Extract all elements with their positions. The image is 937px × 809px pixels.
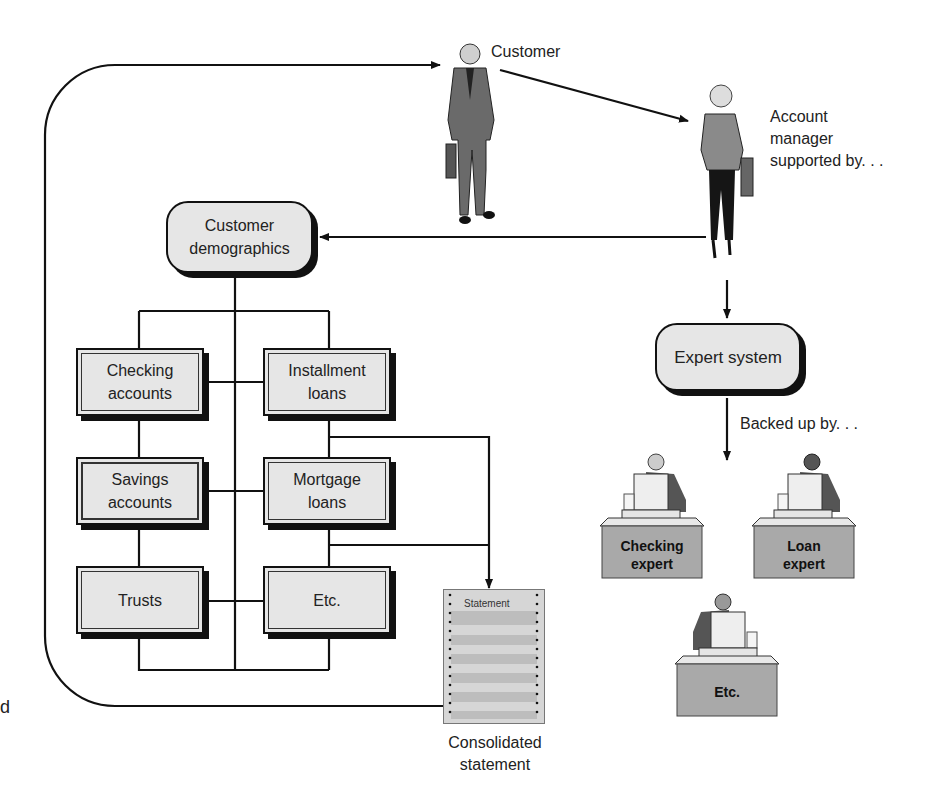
- customer-label: Customer: [491, 41, 560, 63]
- loan-expert-label: Loan expert: [754, 537, 854, 573]
- backed-up-label: Backed up by. . .: [740, 413, 858, 435]
- etc-expert-label: Etc.: [677, 683, 777, 701]
- account-manager-figure-icon: [693, 80, 763, 265]
- customer-to-manager-arrow: [500, 70, 688, 121]
- savings-accounts-node: Savingsaccounts: [76, 457, 204, 525]
- account-manager-label: Account manager supported by. . .: [770, 106, 884, 172]
- checking-accounts-node: Checkingaccounts: [76, 348, 204, 416]
- statement-doc-title: Statement: [464, 598, 510, 609]
- customer-demographics-node: Customer demographics: [166, 201, 313, 273]
- etc-products-node: Etc.: [263, 566, 391, 634]
- consolidated-statement-label: Consolidated statement: [440, 732, 550, 776]
- expert-system-node: Expert system: [655, 323, 801, 391]
- trusts-node: Trusts: [76, 566, 204, 634]
- checking-expert-label: Checking expert: [602, 537, 702, 573]
- installment-loans-node: Installmentloans: [263, 348, 391, 416]
- customer-figure-icon: [440, 40, 510, 230]
- mortgage-loans-node: Mortgageloans: [263, 457, 391, 525]
- statement-document-icon: [443, 589, 546, 726]
- cropped-left-text: d: [0, 696, 10, 718]
